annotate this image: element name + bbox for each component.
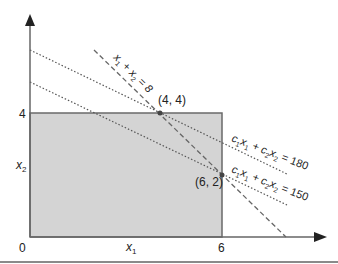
lp-diagram: 4 6 0 x1 x2 (4, 4) (6, 2) x1 + x2 = 8 c1… [0,0,338,264]
point-4-4 [158,111,163,116]
point-label-6-2: (6, 2) [195,175,223,189]
x-tick-label: 6 [218,241,225,255]
x-axis-arrow-icon [314,232,327,242]
x-axis-label: x1 [125,240,137,256]
y-axis-label: x2 [15,158,27,174]
y-axis-arrow-icon [25,14,35,26]
y-tick-label: 4 [19,107,26,121]
constraint-label: x1 + x2 = 8 [109,50,156,97]
origin-label: 0 [19,241,26,255]
feasible-region [30,113,222,237]
point-label-4-4: (4, 4) [158,93,186,107]
